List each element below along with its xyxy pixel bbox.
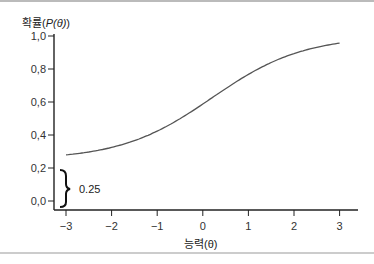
svg-text:−2: −2: [105, 220, 118, 232]
svg-text:0,8: 0,8: [31, 63, 46, 75]
brace-label: 0.25: [79, 183, 100, 195]
svg-text:−3: −3: [60, 220, 73, 232]
svg-text:3: 3: [337, 220, 343, 232]
y-ticks: 0,00,20,40,60,81,0: [31, 30, 54, 207]
x-ticks: −3−2−10123: [60, 210, 343, 232]
svg-text:1,0: 1,0: [31, 30, 46, 42]
x-axis-label: 능력(θ): [184, 238, 217, 250]
svg-text:0,0: 0,0: [31, 195, 46, 207]
svg-text:0: 0: [200, 220, 206, 232]
brace-icon: [60, 170, 70, 207]
svg-text:−1: −1: [151, 220, 164, 232]
svg-text:1: 1: [245, 220, 251, 232]
svg-text:0,2: 0,2: [31, 162, 46, 174]
y-axis-label: 확률(P(θ)): [22, 17, 70, 29]
svg-text:2: 2: [291, 220, 297, 232]
chart: 0,00,20,40,60,81,0 −3−2−10123 0.25 확률(P(…: [0, 0, 374, 264]
icc-curve: [66, 43, 340, 155]
svg-text:0,6: 0,6: [31, 96, 46, 108]
svg-text:0,4: 0,4: [31, 129, 46, 141]
